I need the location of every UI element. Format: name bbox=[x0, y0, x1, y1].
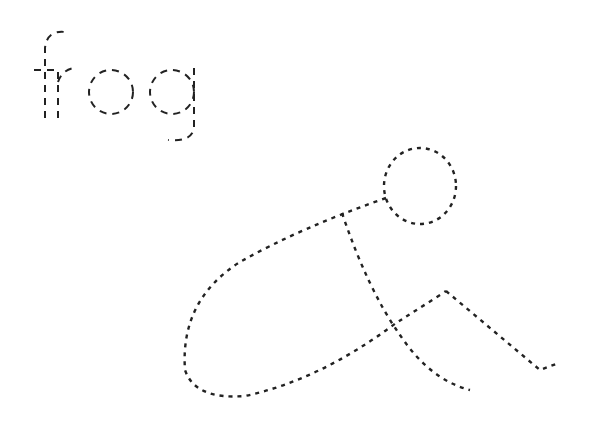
dashed-frog-drawing bbox=[185, 148, 556, 396]
frog-back-leg bbox=[446, 291, 556, 370]
frog-body bbox=[185, 198, 446, 396]
frog-head bbox=[384, 148, 456, 224]
letter-o bbox=[89, 70, 133, 114]
letter-g bbox=[150, 70, 194, 114]
tracing-worksheet bbox=[0, 0, 592, 430]
frog-front-leg bbox=[342, 213, 470, 390]
letter-r bbox=[58, 68, 74, 118]
letter-f bbox=[45, 32, 65, 118]
dashed-word-frog bbox=[34, 32, 194, 140]
